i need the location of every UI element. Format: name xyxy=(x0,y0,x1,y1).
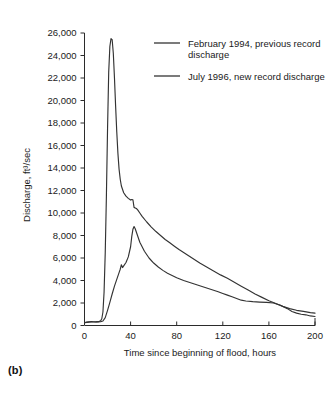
y-tick-label: 20,000 xyxy=(47,95,76,106)
chart-legend: February 1994, previous record discharge… xyxy=(154,38,325,82)
y-tick-label: 16,000 xyxy=(47,140,76,151)
series-line-february-1994 xyxy=(85,227,316,323)
y-tick-label: 12,000 xyxy=(47,185,76,196)
x-tick-label: 80 xyxy=(171,330,182,341)
x-tick-label: 40 xyxy=(125,330,136,341)
legend-label-february-1994-line1: February 1994, previous record xyxy=(188,38,321,49)
legend-label-july-1996-line1: July 1996, new record discharge xyxy=(188,71,325,82)
x-axis-ticks: 04080120160200 xyxy=(82,322,323,341)
x-tick-label: 160 xyxy=(261,330,277,341)
y-tick-label: 18,000 xyxy=(47,117,76,128)
x-axis-title: Time since beginning of flood, hours xyxy=(124,347,277,358)
x-tick-label: 120 xyxy=(215,330,231,341)
y-tick-label: 22,000 xyxy=(47,72,76,83)
y-axis-ticks: 02,0004,0006,0008,00010,00012,00014,0001… xyxy=(47,27,84,331)
panel-caption: (b) xyxy=(8,364,23,376)
y-tick-label: 4,000 xyxy=(53,275,77,286)
legend-label-february-1994-line2: discharge xyxy=(188,49,229,60)
x-tick-label: 200 xyxy=(307,330,323,341)
y-tick-label: 0 xyxy=(71,320,76,331)
y-tick-label: 6,000 xyxy=(53,252,77,263)
y-tick-label: 10,000 xyxy=(47,207,76,218)
y-tick-label: 8,000 xyxy=(53,230,77,241)
figure-panel: 02,0004,0006,0008,00010,00012,00014,0001… xyxy=(0,0,332,394)
y-tick-label: 26,000 xyxy=(47,27,76,38)
y-tick-label: 14,000 xyxy=(47,162,76,173)
y-tick-label: 24,000 xyxy=(47,50,76,61)
y-axis-title: Discharge, ft³/sec xyxy=(21,148,32,222)
discharge-hydrograph-chart: 02,0004,0006,0008,00010,00012,00014,0001… xyxy=(0,0,332,394)
y-tick-label: 2,000 xyxy=(53,297,77,308)
x-tick-label: 0 xyxy=(82,330,87,341)
